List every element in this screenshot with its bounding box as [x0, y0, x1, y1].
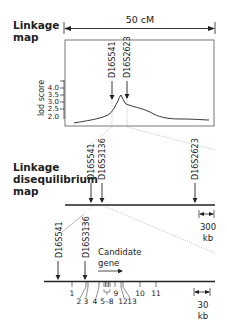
cm-scale-bar: 50 cM: [64, 14, 215, 34]
linkage-marker-d16s541: D16S541: [108, 41, 117, 99]
svg-text:D16S3136: D16S3136: [82, 216, 91, 258]
exon-ticks: [72, 282, 156, 287]
exon-label: 2: [77, 297, 82, 306]
exon-label: 3: [84, 297, 89, 306]
zoom-projection-2: [90, 206, 215, 253]
connector-line: [62, 214, 84, 232]
lod-plot-frame: [65, 40, 214, 126]
y-axis: 4.0 3.5 3.0 2.5 2.0: [48, 80, 64, 121]
y-tick-label: 2.0: [48, 113, 59, 121]
exon-label: 13: [127, 297, 137, 306]
ld-marker-d16s2623: D16S2623: [191, 138, 200, 202]
ld-scale-bar: 300 kb: [199, 210, 216, 243]
y-tick-label: 2.5: [48, 105, 59, 113]
svg-text:D16S2623: D16S2623: [123, 36, 132, 78]
cm-scale-label: 50 cM: [126, 14, 155, 25]
svg-text:gene: gene: [98, 258, 119, 268]
gene-marker-d16s541: D16S541: [55, 221, 64, 279]
gene-marker-d16s3136: D16S3136: [82, 216, 91, 279]
svg-text:D16S541: D16S541: [87, 143, 96, 180]
ld-scale-unit: kb: [203, 233, 213, 243]
candidate-gene-label: Candidate gene: [98, 247, 141, 271]
lod-curve: [74, 95, 209, 123]
svg-text:D16S2623: D16S2623: [191, 138, 200, 180]
exon-label: 1: [70, 289, 75, 298]
exon-label: 11: [151, 289, 161, 298]
y-axis-label: lod score: [37, 80, 46, 116]
svg-text:D16S541: D16S541: [108, 41, 117, 78]
svg-text:D16S541: D16S541: [55, 221, 64, 258]
linkage-marker-d16s2623: D16S2623: [123, 36, 132, 98]
ld-scale-value: 300: [200, 222, 216, 232]
gene-scale-bar: 30 kb: [194, 288, 210, 321]
gene-scale-value: 30: [198, 300, 209, 310]
ld-marker-d16s541: D16S541: [87, 143, 96, 202]
svg-text:Candidate: Candidate: [98, 247, 141, 257]
diagram-canvas: 50 cM lod score 4.0 3.5 3.0 2.5 2.0 D16S…: [0, 0, 227, 334]
gene-scale-unit: kb: [198, 311, 208, 321]
ld-marker-d16s3136: D16S3136: [98, 138, 107, 202]
svg-text:D16S3136: D16S3136: [98, 138, 107, 180]
exon-label: 5–8: [100, 297, 114, 306]
exon-label: 4: [93, 297, 98, 306]
